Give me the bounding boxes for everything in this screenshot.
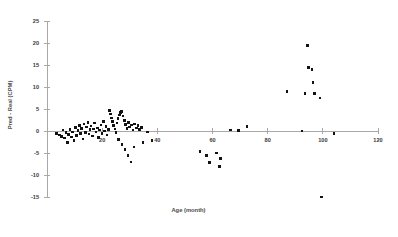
data-point	[105, 125, 108, 128]
y-tick-label: 0	[36, 128, 39, 134]
data-point	[208, 161, 211, 164]
data-point	[82, 138, 85, 141]
x-axis-title: Age (month)	[171, 207, 205, 213]
data-point	[55, 132, 58, 135]
data-point	[306, 44, 309, 47]
data-point	[96, 127, 99, 130]
data-point	[133, 146, 136, 149]
data-point	[73, 139, 76, 142]
y-tick-label: 10	[33, 84, 39, 90]
data-point	[218, 165, 221, 168]
data-point	[124, 148, 127, 151]
data-point	[333, 132, 336, 135]
data-point	[84, 131, 87, 134]
data-point	[307, 66, 310, 69]
data-point	[151, 139, 154, 142]
data-point	[103, 130, 106, 133]
x-tick-label: 100	[318, 137, 327, 143]
data-point	[319, 97, 322, 100]
data-point	[87, 121, 90, 124]
data-point	[114, 128, 117, 131]
data-point	[320, 196, 323, 199]
data-point	[66, 141, 69, 144]
data-point	[199, 150, 202, 153]
data-point	[75, 134, 78, 137]
data-point	[106, 134, 109, 137]
y-tick-label: -10	[31, 172, 39, 178]
data-point	[97, 136, 100, 139]
data-points-layer	[55, 44, 335, 198]
data-point	[100, 124, 103, 127]
data-point	[121, 143, 124, 146]
x-tick-label: 40	[154, 137, 160, 143]
data-point	[127, 121, 130, 124]
data-point	[77, 129, 80, 132]
x-tick-label: 120	[373, 137, 382, 143]
data-point	[65, 131, 68, 134]
data-point	[67, 133, 70, 136]
y-tick-label: 25	[33, 18, 39, 24]
y-tick-label: 5	[36, 106, 39, 112]
data-point	[118, 114, 121, 117]
data-point	[237, 129, 240, 132]
data-point	[142, 141, 145, 144]
y-tick-label: -5	[34, 150, 39, 156]
data-point	[140, 126, 143, 129]
data-point	[70, 136, 73, 139]
data-point	[80, 127, 83, 130]
data-point	[115, 131, 118, 134]
data-point	[137, 124, 140, 127]
data-point	[246, 125, 249, 128]
scatter-chart: -15-10-50510152025 20406080100120 Age (m…	[0, 0, 398, 237]
data-point	[93, 122, 96, 125]
chart-canvas: -15-10-50510152025 20406080100120 Age (m…	[0, 0, 398, 237]
data-point	[130, 161, 133, 164]
data-point	[122, 115, 125, 118]
data-point	[110, 117, 113, 120]
x-tick-label: 60	[209, 137, 215, 143]
data-point	[229, 129, 232, 132]
data-point	[95, 131, 98, 134]
data-point	[116, 122, 119, 125]
data-point	[108, 109, 111, 112]
y-tick-label: -15	[31, 194, 39, 200]
x-tick-label: 80	[265, 137, 271, 143]
data-point	[146, 131, 149, 134]
data-point	[62, 129, 65, 132]
axes-group	[47, 21, 378, 197]
data-point	[117, 138, 120, 141]
data-point	[312, 81, 315, 84]
data-point	[101, 132, 104, 135]
y-axis-title: Pred - Real (CPM)	[7, 81, 13, 130]
data-point	[132, 129, 135, 132]
data-point	[219, 157, 222, 160]
data-point	[69, 128, 72, 131]
data-point	[215, 152, 218, 155]
x-axis-ticks: 20406080100120	[99, 128, 383, 143]
data-point	[313, 92, 316, 95]
data-point	[91, 135, 94, 138]
data-point	[123, 119, 126, 122]
data-point	[74, 126, 77, 129]
data-point	[83, 123, 86, 126]
data-point	[90, 125, 93, 128]
data-point	[286, 90, 289, 93]
data-point	[98, 129, 101, 132]
data-point	[120, 110, 123, 113]
data-point	[117, 117, 120, 120]
data-point	[133, 123, 136, 126]
data-point	[78, 124, 81, 127]
data-point	[85, 126, 88, 129]
data-point	[60, 135, 63, 138]
x-tick-label: 20	[99, 137, 105, 143]
data-point	[112, 124, 115, 127]
data-point	[111, 120, 114, 123]
data-point	[205, 154, 208, 157]
y-tick-label: 15	[33, 62, 39, 68]
data-point	[88, 133, 91, 136]
data-point	[102, 120, 105, 123]
data-point	[92, 128, 95, 131]
data-point	[311, 68, 314, 71]
data-point	[63, 137, 66, 140]
data-point	[109, 113, 112, 116]
